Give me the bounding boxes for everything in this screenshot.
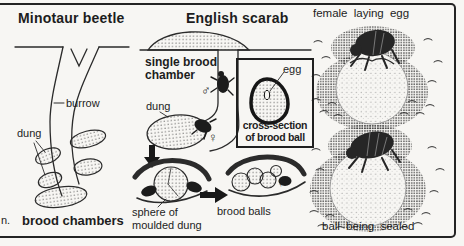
brood-balls [232,166,282,192]
burrow-notch [71,49,87,66]
single-brood-chamber-label: single brood chamber [145,56,217,82]
minotaur-title: Minotaur beetle [18,12,124,25]
arrow-right [200,187,228,203]
minotaur-dung-label: dung [17,127,41,140]
burrow-label: burrow [66,97,100,110]
dung-sausages [33,127,107,211]
female-laying-egg-caption: female laying egg [313,7,409,20]
sphere-of-moulded-dung-label: sphere of moulded dung [132,206,202,232]
dung-mound [148,32,249,50]
ball-being-sealed-caption: ball being sealed [322,220,414,233]
brood-chambers-caption: brood chambers [22,214,124,227]
female-symbol-upper: ♀ [208,131,218,144]
ball-being-sealed-drawing [310,124,444,232]
dung-sphere [154,167,188,201]
cross-section-inset: egg cross-section of brood ball [236,58,314,148]
male-symbol: ♂ [201,84,211,97]
egg-label: egg [283,63,301,75]
brood-balls-label: brood balls [217,205,271,218]
dung-ball-texture [331,151,405,225]
figure-beetle-nesting-diagram: egg cross-section of brood ball Minotaur… [0,0,464,246]
female-laying-egg-drawing [312,26,442,131]
scarab-dung-label: dung [146,100,170,113]
inset-caption: cross-section of brood ball [238,119,312,143]
broodball-chamber-roof [228,157,304,174]
dung-ball-texture [337,53,407,123]
margin-text-fragment: n. [1,214,10,227]
scarab-title: English scarab [186,12,288,25]
female-symbol-lower: ♀ [276,176,286,189]
